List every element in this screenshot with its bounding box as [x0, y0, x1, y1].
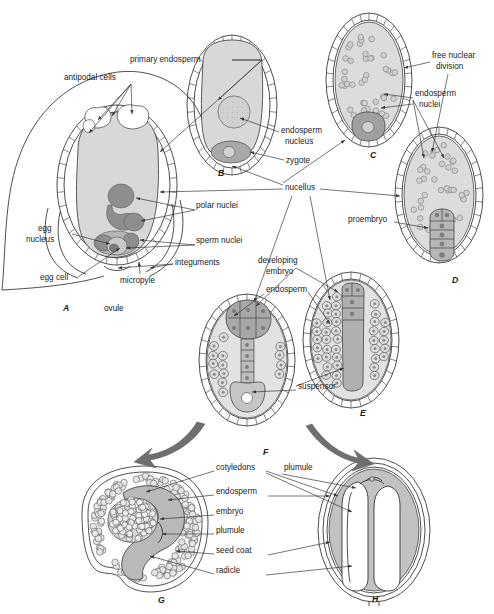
label-nucellus: nucellus	[285, 183, 315, 192]
label-plumule-G: plumule	[216, 526, 245, 535]
label-endosperm-nucleus-1: endosperm	[281, 126, 322, 135]
panel-d-proembryo: D	[395, 127, 483, 285]
label-egg-cell: egg cell	[40, 273, 68, 282]
label-free-nuclear-division-1: free nuclear	[432, 51, 476, 60]
panel-label-f: F	[263, 447, 269, 457]
label-plumule-top: plumule	[284, 463, 313, 472]
panel-label-c: C	[370, 150, 377, 160]
label-ovule: ovule	[104, 304, 124, 313]
label-primary-endosperm: primary endosperm	[130, 55, 201, 64]
label-egg-nucleus-2: nucleus	[26, 235, 54, 244]
label-integuments: integuments	[175, 258, 220, 267]
label-egg-nucleus-1: egg	[38, 224, 52, 233]
label-zygote: zygote	[286, 156, 311, 165]
label-embryo-G: embryo	[216, 507, 244, 516]
label-cotyledons: cotyledons	[216, 463, 255, 472]
label-endosperm-F: endosperm	[266, 285, 307, 294]
diagram-canvas: B C D	[0, 0, 494, 614]
panel-label-d: D	[452, 275, 458, 285]
panel-g-mature-seed-curved: G	[82, 466, 208, 605]
panel-label-a: A	[62, 303, 69, 313]
arrow-f-to-h	[306, 424, 374, 471]
label-endosperm-nucleus-2: nucleus	[285, 137, 313, 146]
arrow-f-to-g	[134, 422, 205, 468]
label-developing-embryo-1: developing	[258, 256, 298, 265]
label-antipodal-cells: antipodal cells	[64, 73, 116, 82]
panel-c-free-nuclear: C	[326, 13, 412, 160]
panel-e-elongating-embryo: E	[303, 272, 399, 418]
label-endosperm-nuclei-1: endosperm	[415, 89, 456, 98]
panel-label-e: E	[360, 408, 366, 418]
embryo-development-diagram: B C D	[0, 0, 494, 614]
label-sperm-nuclei: sperm nuclei	[196, 236, 243, 245]
label-suspensor: suspensor	[298, 382, 336, 391]
label-proembryo: proembryo	[348, 215, 388, 224]
panel-label-h: H	[372, 594, 379, 604]
label-radicle: radicle	[216, 566, 241, 575]
label-endosperm-nuclei-2: nuclei	[419, 100, 441, 109]
label-developing-embryo-2: embryo	[266, 267, 294, 276]
label-free-nuclear-division-2: division	[436, 62, 464, 71]
label-micropyle: micropyle	[120, 276, 155, 285]
panel-label-g: G	[158, 595, 165, 605]
label-polar-nuclei: polar nuclei	[196, 201, 238, 210]
panel-label-b: B	[218, 168, 224, 178]
label-endosperm-G: endosperm	[216, 487, 257, 496]
panel-f-embryo-suspensor: F	[199, 294, 295, 457]
panel-h-mature-seed-straight: H	[318, 458, 430, 606]
label-seed-coat: seed coat	[216, 546, 252, 555]
